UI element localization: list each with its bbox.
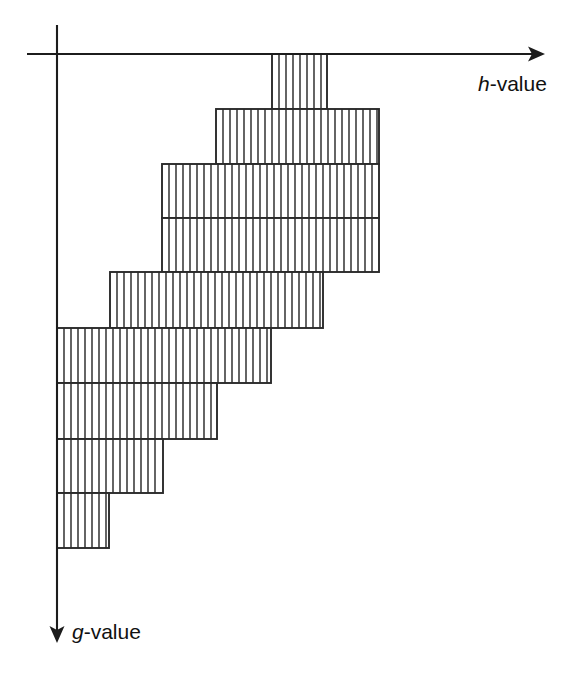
- band-6: [57, 328, 271, 383]
- band-outline: [57, 493, 109, 548]
- band-2: [216, 109, 379, 164]
- g-axis-label: g-value: [72, 620, 141, 643]
- band-outline: [110, 272, 323, 328]
- band-outline: [57, 383, 217, 439]
- band-9: [57, 493, 109, 548]
- staircase-diagram: h-value g-value: [0, 0, 579, 688]
- h-axis-label: h-value: [478, 72, 547, 95]
- band-outline: [162, 164, 379, 218]
- band-8: [57, 439, 163, 493]
- band-4: [162, 218, 379, 272]
- axis-label-variable: h: [478, 72, 490, 95]
- bands-layer: [57, 54, 379, 548]
- band-outline: [216, 109, 379, 164]
- band-7: [57, 383, 217, 439]
- band-3: [162, 164, 379, 218]
- axis-label-suffix: -value: [490, 72, 547, 95]
- band-outline: [57, 439, 163, 493]
- axis-label-variable: g: [72, 620, 84, 643]
- axis-label-suffix: -value: [84, 620, 141, 643]
- band-outline: [162, 218, 379, 272]
- figure-root: h-value g-value: [0, 0, 579, 688]
- band-1: [272, 54, 327, 109]
- band-5: [110, 272, 323, 328]
